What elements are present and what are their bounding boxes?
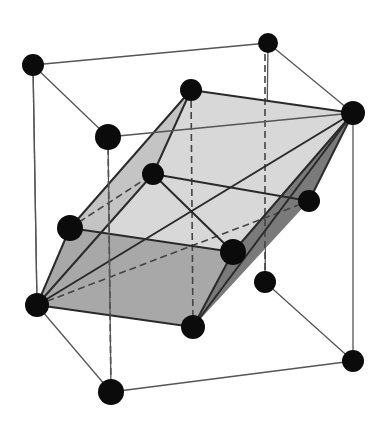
atom-cube-back-top-left [22,54,44,76]
atom-rhombo-top [180,79,202,101]
atom-cube-front-bottom-right [342,350,364,372]
crystal-lattice-diagram [0,0,392,430]
atom-cube-back-bottom-right [254,271,276,293]
atom-cube-front-bottom-left [98,379,124,405]
atom-rhombo-inner [142,163,164,185]
atom-cube-back-bottom-left [25,293,49,317]
atom-cube-front-top-left [95,124,121,150]
atom-rhombo-right [298,190,320,212]
atom-cube-back-top-right [258,33,278,53]
atom-rhombo-left [57,215,83,241]
lattice-svg [0,0,392,430]
atom-cube-front-top-right [341,101,365,125]
atom-rhombo-bottom [181,315,205,339]
atom-rhombo-front [220,239,246,265]
